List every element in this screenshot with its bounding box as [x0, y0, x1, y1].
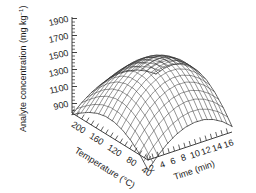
x-tick-label: 16 [222, 137, 235, 150]
x-axis-group: 2 4 6 8 10 12 14 16 Time (min) [147, 128, 235, 181]
mesh-line [146, 58, 222, 122]
z-tick-label: 1500 [48, 48, 70, 62]
surface-plot-figure: 1900 1700 1500 1300 1100 900 Analyte con… [0, 0, 256, 193]
y-axis-title: Temperature (°C) [73, 145, 137, 190]
y-tick-label: 200 [70, 119, 88, 135]
z-tick-label: 1100 [48, 82, 69, 96]
x-tick-label: 14 [211, 141, 224, 154]
z-axis-title: Analyte concentration (mg kg−1) [18, 6, 29, 132]
z-axis-title-end: ) [18, 6, 28, 9]
z-tick-label: 1700 [48, 31, 70, 45]
z-tick-label: 900 [53, 99, 70, 112]
x-tick-label: 4 [159, 159, 167, 170]
z-axis-title-main: Analyte concentration (mg kg [18, 15, 28, 132]
mesh-line [107, 66, 183, 129]
surface-plot-canvas: 1900 1700 1500 1300 1100 900 Analyte con… [0, 0, 256, 193]
x-axis-title: Time (min) [172, 159, 216, 182]
z-axis-major-ticks [72, 19, 77, 104]
y-tick-label: 120 [106, 142, 124, 158]
x-tick-label: 8 [180, 152, 188, 163]
y-tick-label: 160 [88, 131, 106, 147]
x-tick-label: 6 [169, 156, 177, 167]
mesh-line [156, 63, 232, 126]
z-axis-group: 1900 1700 1500 1300 1100 900 Analyte con… [18, 6, 78, 132]
y-axis-group: 200 160 120 80 40 Temperature (°C) [70, 109, 154, 191]
z-tick-label: 1300 [48, 65, 70, 79]
y-tick-label: 80 [125, 155, 139, 169]
z-tick-label: 1900 [48, 14, 70, 28]
